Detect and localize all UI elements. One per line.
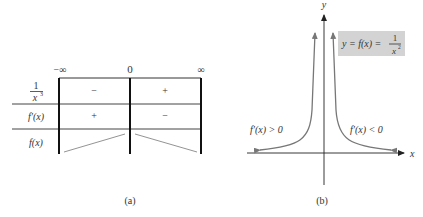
equation-exponent: 2 bbox=[398, 44, 401, 50]
y-axis-label: y bbox=[321, 0, 327, 10]
equation-numerator: 1 bbox=[393, 33, 398, 43]
caption-a: (a) bbox=[124, 195, 135, 207]
sign-r1-c2: + bbox=[162, 85, 168, 96]
row-label-fprime: f′(x) bbox=[28, 111, 45, 123]
x-axis-label: x bbox=[409, 148, 415, 159]
svg-text:1: 1 bbox=[34, 80, 39, 91]
right-annotation: f′(x) < 0 bbox=[350, 124, 383, 136]
equation-lhs: y = f(x) = bbox=[341, 38, 381, 50]
row-label-f: f(x) bbox=[29, 137, 44, 149]
row-label-inv-x-cubed: 1 x 3 bbox=[30, 80, 43, 103]
trend-increasing-line bbox=[64, 134, 125, 152]
col-label-zero: 0 bbox=[127, 63, 133, 75]
sign-r2-c1: + bbox=[91, 110, 97, 121]
left-annotation: f′(x) > 0 bbox=[250, 124, 283, 136]
svg-text:x: x bbox=[32, 92, 38, 103]
col-label-neg-inf: −∞ bbox=[54, 64, 67, 75]
caption-b: (b) bbox=[316, 195, 328, 207]
figure-canvas: −∞ 0 ∞ 1 x 3 − + f′(x) + − f(x) (a) bbox=[0, 0, 423, 217]
svg-text:3: 3 bbox=[40, 91, 43, 97]
graph-one-over-x-squared: x y y = f(x) = 1 x 2 f′(x) > 0 f′(x) < 0… bbox=[247, 0, 415, 207]
trend-decreasing-line bbox=[135, 134, 197, 152]
col-label-pos-inf: ∞ bbox=[197, 64, 204, 75]
sign-table: −∞ 0 ∞ 1 x 3 − + f′(x) + − f(x) (a) bbox=[12, 63, 205, 207]
equation-denominator: x bbox=[391, 46, 396, 56]
sign-r1-c1: − bbox=[91, 85, 97, 96]
sign-r2-c2: − bbox=[162, 110, 168, 121]
